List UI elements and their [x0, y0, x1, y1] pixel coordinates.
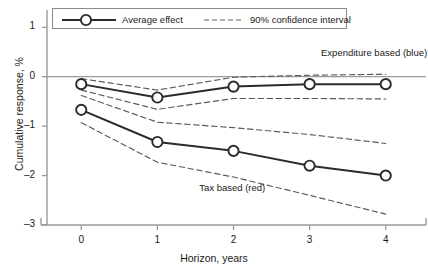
data-point-markers	[76, 79, 391, 181]
legend-item-confidence-interval: 90% confidence interval	[203, 9, 351, 30]
chart-legend: Average effect 90% confidence interval	[52, 8, 347, 29]
confidence-line	[81, 123, 385, 214]
data-point-marker	[228, 146, 238, 156]
x-axis-title: Horizon, years	[0, 252, 428, 264]
annotation-expenditure-based: Expenditure based (blue)	[321, 47, 427, 58]
y-tick-label: 1	[9, 20, 35, 31]
x-tick-label: 2	[219, 234, 249, 245]
y-tick-label: –3	[9, 218, 35, 229]
legend-dashed-line-icon	[203, 12, 245, 28]
y-tick-label: 0	[9, 70, 35, 81]
axes	[41, 10, 426, 230]
x-tick-label: 0	[66, 234, 96, 245]
data-point-marker	[305, 79, 315, 89]
y-tick-label: –1	[9, 119, 35, 130]
confidence-line	[81, 96, 385, 144]
data-point-marker	[152, 92, 162, 102]
legend-label-confidence-interval: 90% confidence interval	[250, 14, 351, 25]
chart-canvas	[0, 0, 428, 274]
legend-line-marker-icon	[61, 12, 117, 28]
x-tick-label: 3	[295, 234, 325, 245]
x-tick-label: 4	[371, 234, 401, 245]
data-point-marker	[381, 170, 391, 180]
y-tick-label: –2	[9, 169, 35, 180]
chart-container: Cumulative response, % Horizon, years 10…	[0, 0, 428, 274]
data-point-marker	[305, 161, 315, 171]
confidence-interval-lines	[81, 74, 385, 214]
data-point-marker	[76, 105, 86, 115]
annotation-tax-based: Tax based (red)	[199, 182, 265, 193]
data-point-marker	[228, 82, 238, 92]
legend-label-average-effect: Average effect	[122, 14, 183, 25]
legend-item-average-effect: Average effect	[61, 9, 183, 30]
data-point-marker	[76, 79, 86, 89]
data-point-marker	[152, 137, 162, 147]
data-point-marker	[381, 79, 391, 89]
average-effect-line	[81, 110, 385, 176]
average-effect-lines	[81, 84, 385, 175]
x-tick-label: 1	[142, 234, 172, 245]
